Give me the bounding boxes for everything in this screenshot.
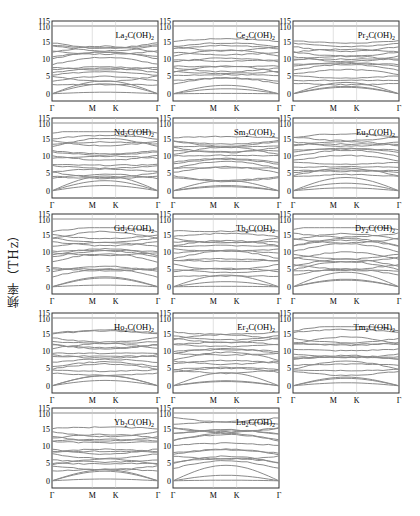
svg-text:K: K	[234, 104, 240, 113]
phonon-panel-eu: 051015115110ΓMKΓEu2C(OH)2	[293, 118, 399, 198]
svg-text:0: 0	[167, 187, 171, 196]
svg-text:K: K	[113, 491, 119, 500]
svg-text:K: K	[234, 396, 240, 405]
svg-text:La2C(OH)2: La2C(OH)2	[115, 30, 154, 41]
svg-text:5: 5	[167, 459, 171, 468]
svg-text:5: 5	[287, 265, 291, 274]
svg-text:5: 5	[46, 169, 50, 178]
svg-text:Γ: Γ	[50, 201, 55, 210]
svg-text:Γ: Γ	[291, 396, 296, 405]
svg-text:0: 0	[46, 382, 50, 391]
svg-text:K: K	[113, 201, 119, 210]
svg-text:M: M	[89, 396, 96, 405]
svg-text:5: 5	[46, 459, 50, 468]
svg-text:110: 110	[159, 23, 171, 32]
svg-text:10: 10	[163, 347, 171, 356]
svg-text:Γ: Γ	[171, 491, 176, 500]
svg-text:K: K	[234, 201, 240, 210]
svg-text:Er2C(OH)2: Er2C(OH)2	[237, 322, 275, 333]
svg-text:110: 110	[279, 315, 291, 324]
svg-text:110: 110	[279, 120, 291, 129]
svg-text:Sm2C(OH)2: Sm2C(OH)2	[234, 127, 275, 138]
svg-text:15: 15	[42, 135, 50, 144]
svg-text:0: 0	[167, 477, 171, 486]
svg-text:0: 0	[167, 283, 171, 292]
svg-text:5: 5	[167, 169, 171, 178]
svg-text:15: 15	[283, 330, 291, 339]
phonon-panel-sm: 051015115110ΓMKΓSm2C(OH)2	[173, 118, 279, 198]
svg-text:M: M	[330, 201, 337, 210]
svg-text:Γ: Γ	[156, 104, 161, 113]
svg-text:0: 0	[287, 283, 291, 292]
svg-text:Γ: Γ	[50, 297, 55, 306]
svg-text:15: 15	[163, 425, 171, 434]
phonon-panel-lu: 051015115110ΓMKΓLu2C(OH)2	[173, 408, 279, 488]
svg-text:Ce2C(OH)2: Ce2C(OH)2	[236, 30, 275, 41]
svg-text:15: 15	[163, 330, 171, 339]
svg-text:5: 5	[287, 364, 291, 373]
svg-text:10: 10	[163, 442, 171, 451]
svg-text:110: 110	[279, 216, 291, 225]
svg-text:Γ: Γ	[277, 491, 282, 500]
svg-text:10: 10	[283, 347, 291, 356]
y-axis-label: 频率（THz）	[8, 228, 24, 308]
svg-text:0: 0	[46, 90, 50, 99]
svg-text:Tb2C(OH)2: Tb2C(OH)2	[236, 223, 275, 234]
svg-text:Nd2C(OH)2: Nd2C(OH)2	[114, 127, 154, 138]
svg-text:0: 0	[46, 477, 50, 486]
svg-text:110: 110	[38, 120, 50, 129]
svg-text:110: 110	[279, 23, 291, 32]
svg-text:15: 15	[283, 231, 291, 240]
phonon-panel-la: 051015115110ΓMKΓLa2C(OH)2	[52, 21, 158, 101]
svg-text:0: 0	[167, 382, 171, 391]
svg-text:0: 0	[46, 187, 50, 196]
svg-text:Γ: Γ	[156, 491, 161, 500]
svg-text:15: 15	[283, 38, 291, 47]
svg-text:15: 15	[163, 231, 171, 240]
svg-text:Ho2C(OH)2: Ho2C(OH)2	[114, 322, 154, 333]
svg-text:0: 0	[287, 90, 291, 99]
svg-text:Γ: Γ	[277, 297, 282, 306]
svg-text:K: K	[354, 201, 360, 210]
svg-text:Γ: Γ	[277, 104, 282, 113]
svg-text:K: K	[113, 396, 119, 405]
svg-text:K: K	[354, 297, 360, 306]
svg-text:Tm2C(OH)2: Tm2C(OH)2	[354, 322, 395, 333]
svg-text:5: 5	[167, 265, 171, 274]
svg-text:10: 10	[283, 248, 291, 257]
svg-text:M: M	[330, 396, 337, 405]
svg-text:Γ: Γ	[171, 201, 176, 210]
svg-text:5: 5	[167, 72, 171, 81]
svg-text:K: K	[234, 491, 240, 500]
svg-text:110: 110	[38, 23, 50, 32]
svg-text:M: M	[210, 297, 217, 306]
svg-text:M: M	[89, 201, 96, 210]
svg-text:10: 10	[42, 442, 50, 451]
svg-text:10: 10	[283, 55, 291, 64]
svg-text:5: 5	[287, 169, 291, 178]
svg-text:Γ: Γ	[50, 104, 55, 113]
svg-text:Γ: Γ	[397, 104, 402, 113]
svg-text:110: 110	[159, 216, 171, 225]
svg-text:10: 10	[163, 55, 171, 64]
svg-text:K: K	[354, 104, 360, 113]
svg-text:110: 110	[159, 120, 171, 129]
svg-text:Γ: Γ	[291, 297, 296, 306]
svg-text:Yb2C(OH)2: Yb2C(OH)2	[114, 417, 154, 428]
svg-text:Lu2C(OH)2: Lu2C(OH)2	[236, 417, 275, 428]
svg-text:5: 5	[46, 364, 50, 373]
svg-text:110: 110	[38, 315, 50, 324]
svg-text:10: 10	[163, 248, 171, 257]
svg-text:110: 110	[38, 216, 50, 225]
svg-text:Γ: Γ	[397, 297, 402, 306]
svg-text:15: 15	[42, 330, 50, 339]
svg-text:110: 110	[159, 315, 171, 324]
svg-text:Γ: Γ	[156, 297, 161, 306]
svg-text:0: 0	[167, 90, 171, 99]
svg-text:M: M	[89, 297, 96, 306]
phonon-panel-tm: 051015115110ΓMKΓTm2C(OH)2	[293, 313, 399, 393]
svg-text:5: 5	[46, 265, 50, 274]
phonon-panel-nd: 051015115110ΓMKΓNd2C(OH)2	[52, 118, 158, 198]
svg-text:0: 0	[287, 382, 291, 391]
svg-text:Γ: Γ	[171, 396, 176, 405]
